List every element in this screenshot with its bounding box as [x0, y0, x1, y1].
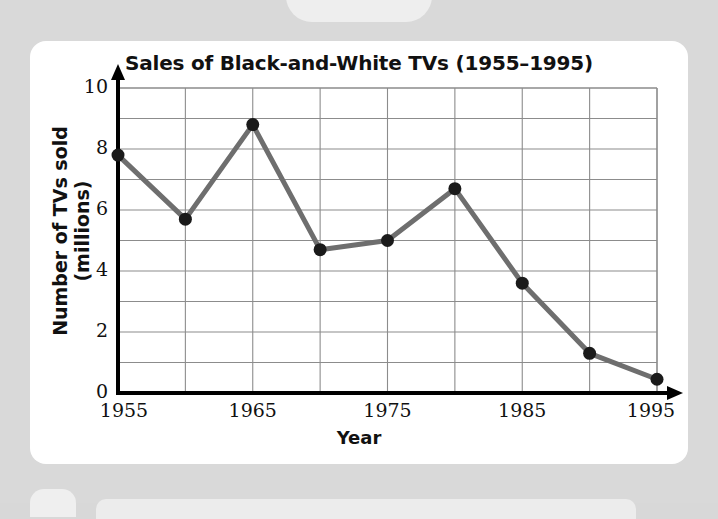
chart-card: Sales of Black-and-White TVs (1955–1995)…	[30, 41, 688, 464]
y-tick-label: 6	[68, 197, 108, 219]
y-tick-label: 4	[68, 258, 108, 280]
data-point-marker	[381, 234, 394, 247]
data-point-marker	[448, 182, 461, 195]
y-axis-arrowhead	[111, 64, 125, 80]
x-tick-label: 1955	[84, 399, 164, 421]
plot-area: 0246810 19551965197519851995	[30, 41, 688, 464]
y-tick-label: 10	[68, 75, 108, 97]
data-point-marker	[583, 347, 596, 360]
x-tick-label: 1985	[482, 399, 562, 421]
page-bottom-tab-notch-left	[30, 489, 76, 517]
data-point-marker	[651, 373, 664, 386]
y-tick-label: 2	[68, 319, 108, 341]
page-bottom-tab-notch-wide	[96, 499, 636, 519]
data-point-marker	[516, 277, 529, 290]
x-tick-label: 1965	[213, 399, 293, 421]
x-axis-arrowhead	[667, 386, 683, 400]
x-tick-label: 1995	[611, 399, 691, 421]
page-top-tab-notch	[286, 0, 432, 22]
data-point-marker	[112, 149, 125, 162]
x-tick-label: 1975	[348, 399, 428, 421]
data-point-marker	[246, 118, 259, 131]
data-point-marker	[314, 243, 327, 256]
data-point-marker	[179, 213, 192, 226]
y-tick-label: 8	[68, 136, 108, 158]
